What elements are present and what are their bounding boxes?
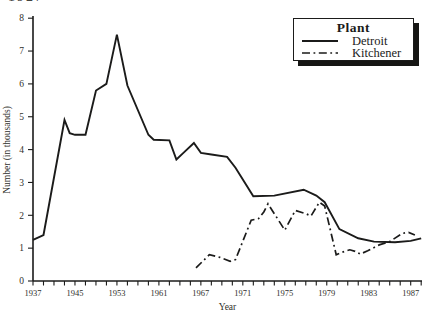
x-tick-label: 1983 (360, 288, 377, 298)
x-tick-label: 1945 (66, 288, 83, 298)
y-tick-label: 6 (19, 79, 24, 89)
legend-entry-kitchener: Kitchener (294, 47, 413, 59)
legend: Plant Detroit Kitchener (293, 18, 414, 61)
y-axis-title: Number (in thousands) (2, 106, 13, 194)
x-tick-label: 1953 (108, 288, 125, 298)
x-tick-label: 1975 (276, 288, 293, 298)
legend-label-kitchener: Kitchener (352, 46, 401, 61)
y-tick-label: 8 (19, 13, 24, 23)
detroit-line (33, 35, 421, 243)
y-tick-label: 0 (19, 276, 24, 286)
y-tick-label: 7 (19, 46, 24, 56)
y-tick-label: 2 (19, 211, 24, 221)
x-tick-label: 1967 (192, 288, 209, 298)
y-tick-label: 5 (19, 112, 24, 122)
y-tick-label: 3 (19, 178, 24, 188)
y-tick-label: 1 (19, 243, 24, 253)
kitchener-line (196, 202, 415, 268)
x-tick-label: 1961 (150, 288, 167, 298)
solid-line-sample (301, 39, 339, 43)
x-axis-title: Year (219, 302, 237, 312)
x-tick-label: 1937 (25, 288, 42, 298)
x-tick-label: 1979 (318, 288, 335, 298)
dash-dot-line-sample (301, 51, 339, 55)
x-tick-label: 1971 (234, 288, 251, 298)
y-tick-label: 4 (19, 145, 24, 155)
figure-page: 1927 19371945195319611967197119751979198… (0, 0, 431, 318)
x-tick-label: 1987 (402, 288, 419, 298)
